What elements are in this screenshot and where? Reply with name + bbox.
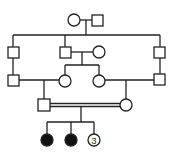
gen3-right-female <box>93 75 105 87</box>
gen2-right-male <box>154 47 165 58</box>
gen3-left-male <box>8 75 19 86</box>
offspring-count-label: 3 <box>91 136 96 146</box>
gen4-female <box>120 99 132 111</box>
gen1-female <box>68 14 80 26</box>
pedigree-chart: 3 <box>0 0 178 156</box>
gen2-middle-male <box>60 47 71 58</box>
gen5-affected-female-1 <box>41 134 53 146</box>
gen1-male <box>92 15 103 26</box>
gen5-affected-female-2 <box>65 134 77 146</box>
gen3-right-male <box>154 74 165 85</box>
gen2-middle-female <box>93 46 105 58</box>
gen3-left-female <box>59 75 71 87</box>
gen4-male <box>38 99 50 111</box>
gen2-left-male <box>8 47 19 58</box>
